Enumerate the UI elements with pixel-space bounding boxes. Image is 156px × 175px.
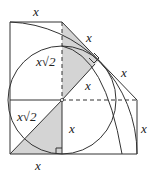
label-diag-upper: x	[85, 30, 92, 45]
shaded-upper-triangle	[62, 22, 99, 100]
label-right-vertical: x	[140, 121, 147, 136]
label-left-lower: x√2	[16, 109, 37, 124]
label-left-upper: x√2	[35, 54, 56, 69]
label-top: x	[32, 4, 39, 19]
center-point	[60, 98, 63, 101]
label-bottom: x	[34, 158, 41, 173]
label-perp: x	[84, 78, 91, 93]
geometry-diagram: x x x x x√2 x√2 x x x	[0, 0, 156, 175]
label-diag-lower: x	[120, 65, 127, 80]
label-mid-vertical: x	[68, 121, 75, 136]
